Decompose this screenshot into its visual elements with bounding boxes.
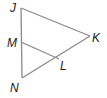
label-m: M	[7, 36, 17, 50]
label-k: K	[92, 31, 101, 45]
label-l: L	[60, 59, 67, 73]
segment-jk	[21, 8, 90, 36]
label-j: J	[9, 1, 17, 15]
label-n: N	[10, 81, 19, 95]
segment-ml	[21, 42, 59, 59]
triangle-diagram: J K M L N	[0, 0, 107, 98]
